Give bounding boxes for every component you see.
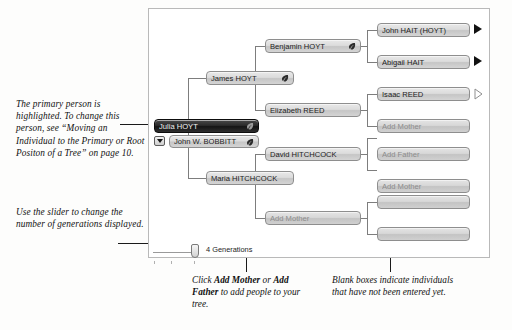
connector	[367, 234, 377, 235]
chevron-down-icon	[157, 139, 163, 143]
annotation-primary-person: The primary person is highlighted. To ch…	[16, 98, 148, 159]
connector	[255, 154, 265, 155]
slider-tick	[194, 261, 195, 264]
connector	[367, 94, 368, 126]
person-node-david-hitchcock[interactable]: David HITCHCOCK	[265, 147, 361, 161]
person-name: Isaac REED	[382, 90, 465, 99]
person-node-blank-1[interactable]	[377, 195, 470, 209]
generations-slider-thumb[interactable]	[191, 244, 199, 258]
slider-tick	[154, 261, 155, 264]
person-name: Julia HOYT	[159, 122, 243, 131]
person-node-elizabeth-reed[interactable]: Elizabeth REED	[265, 103, 361, 117]
caption-blank-boxes: Blank boxes indicate individuals that ha…	[332, 274, 454, 298]
connector	[255, 218, 265, 219]
expand-arrow-icon-john-hait[interactable]	[474, 24, 482, 34]
person-node-james-hoyt[interactable]: James HOYT	[206, 71, 294, 85]
person-node-blank-2[interactable]	[377, 227, 470, 241]
leaf-hint-icon[interactable]	[246, 138, 254, 146]
connector	[367, 30, 377, 31]
person-node-add-father-hitchcock[interactable]: Add Father	[377, 147, 470, 161]
connector	[367, 62, 377, 63]
connector	[188, 78, 206, 79]
connector	[367, 94, 377, 95]
generations-slider-label: 4 Generations	[206, 245, 252, 254]
connector	[361, 110, 367, 111]
person-name: John HAIT (HOYT)	[382, 26, 465, 35]
person-node-add-mother-hitchcock-2[interactable]: Add Mother	[377, 179, 470, 193]
person-node-abigail-hait[interactable]: Abigail HAIT	[377, 55, 470, 69]
add-father-label: Add Father	[382, 150, 465, 159]
person-node-john-bobbitt[interactable]: John W. BOBBITT	[169, 135, 259, 148]
connector	[367, 202, 368, 234]
connector	[367, 138, 368, 170]
connector	[188, 126, 189, 178]
connector	[255, 46, 265, 47]
annotation-slider: Use the slider to change the number of g…	[16, 206, 144, 230]
connector	[367, 170, 377, 171]
person-name: John W. BOBBITT	[174, 137, 243, 146]
person-node-isaac-reed[interactable]: Isaac REED	[377, 87, 470, 101]
callout-line-slider	[118, 243, 152, 244]
connector	[367, 30, 368, 62]
connector	[255, 154, 256, 218]
person-node-benjamin-hoyt[interactable]: Benjamin HOYT	[265, 39, 361, 53]
person-name: Benjamin HOYT	[270, 42, 345, 51]
connector	[361, 154, 367, 155]
page-root: The primary person is highlighted. To ch…	[0, 0, 512, 330]
caption-add-people: Click Add Mother or Add Father to add pe…	[192, 274, 312, 311]
add-mother-label: Add Mother	[270, 214, 356, 223]
leaf-hint-icon[interactable]	[281, 74, 289, 82]
connector	[367, 126, 377, 127]
connector	[255, 110, 265, 111]
caption-add-mother-bold: Add Mother	[214, 275, 260, 285]
person-node-add-mother-reed[interactable]: Add Mother	[377, 119, 470, 133]
caption-pointer-add	[246, 258, 247, 272]
connector	[367, 202, 377, 203]
person-name: James HOYT	[211, 74, 278, 83]
add-mother-label: Add Mother	[382, 182, 465, 191]
person-node-john-hait[interactable]: John HAIT (HOYT)	[377, 23, 470, 37]
family-tree-panel: Julia HOYT John W. BOBBITT James HOYT Ma…	[148, 8, 490, 258]
person-node-maria-hitchcock[interactable]: Maria HITCHCOCK	[206, 171, 294, 185]
connector	[361, 46, 367, 47]
add-mother-label: Add Mother	[382, 122, 465, 131]
caption-add-mid: or	[260, 275, 273, 285]
person-node-add-mother-hitchcock[interactable]: Add Mother	[265, 211, 361, 225]
person-name: Abigail HAIT	[382, 58, 465, 67]
caption-add-pre: Click	[192, 275, 214, 285]
person-node-julia-hoyt[interactable]: Julia HOYT	[154, 119, 259, 133]
spouse-dropdown-button[interactable]	[154, 136, 165, 146]
slider-tick	[171, 261, 172, 264]
connector	[188, 178, 206, 179]
callout-line-primary	[120, 124, 148, 125]
leaf-hint-icon[interactable]	[246, 122, 254, 130]
person-name: Elizabeth REED	[270, 106, 356, 115]
leaf-hint-icon[interactable]	[348, 42, 356, 50]
person-name: Maria HITCHCOCK	[211, 174, 289, 183]
connector	[367, 138, 377, 139]
person-name: David HITCHCOCK	[270, 150, 356, 159]
expand-arrow-icon-abigail-hait[interactable]	[474, 56, 482, 66]
connector	[361, 218, 367, 219]
